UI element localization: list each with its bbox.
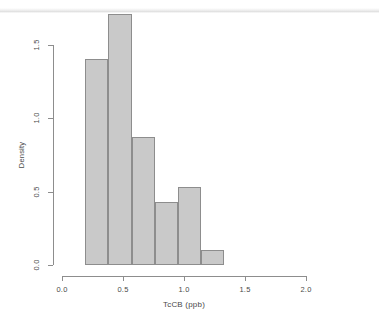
- y-axis-line: [53, 45, 54, 266]
- x-axis-tick: [184, 276, 185, 281]
- x-axis-title: TcCB (ppb): [163, 300, 205, 309]
- y-axis-tick-label: 0.5: [31, 183, 43, 201]
- x-axis-tick: [306, 276, 307, 281]
- plot-area: 0.00.51.01.50.00.51.01.52.0TcCB (ppb)Den…: [0, 0, 379, 321]
- histogram-bar: [201, 250, 224, 265]
- x-axis-tick-label: 0.0: [56, 285, 67, 294]
- y-axis-tick-label: 1.5: [31, 36, 43, 54]
- y-axis-tick: [48, 118, 53, 119]
- histogram-bar: [178, 187, 201, 265]
- histogram-bar: [155, 202, 178, 265]
- histogram-bar: [108, 14, 131, 265]
- x-axis-tick-label: 1.5: [239, 285, 250, 294]
- y-axis-tick: [48, 192, 53, 193]
- x-axis-tick: [245, 276, 246, 281]
- y-axis-tick: [48, 265, 53, 266]
- y-axis-title: Density: [16, 135, 28, 175]
- x-axis-tick-label: 0.5: [117, 285, 128, 294]
- x-axis-tick: [62, 276, 63, 281]
- y-axis-tick-label: 0.0: [31, 256, 43, 274]
- y-axis-tick: [48, 45, 53, 46]
- y-axis-tick-label: 1.0: [31, 109, 43, 127]
- x-axis-tick: [123, 276, 124, 281]
- x-axis-tick-label: 2.0: [300, 285, 311, 294]
- histogram-plot: 0.00.51.01.50.00.51.01.52.0TcCB (ppb)Den…: [0, 0, 379, 321]
- x-axis-tick-label: 1.0: [178, 285, 189, 294]
- histogram-bar: [132, 137, 155, 265]
- histogram-bar: [85, 59, 108, 265]
